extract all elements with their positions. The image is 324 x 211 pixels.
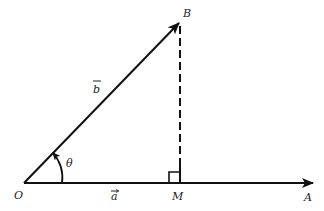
vector-projection-diagram: O B M A θ b a xyxy=(0,0,324,211)
point-label-m: M xyxy=(171,190,184,203)
point-label-a: A xyxy=(303,191,312,204)
angle-theta-label: θ xyxy=(66,157,73,170)
angle-theta-arc xyxy=(53,153,62,183)
vector-b-line xyxy=(24,23,179,183)
point-label-o: O xyxy=(14,189,23,202)
vector-a-label: a xyxy=(111,190,119,204)
svg-text:b: b xyxy=(93,83,100,96)
vector-b-label: b xyxy=(93,81,101,96)
point-label-b: B xyxy=(182,7,191,20)
right-angle-marker xyxy=(169,172,180,183)
